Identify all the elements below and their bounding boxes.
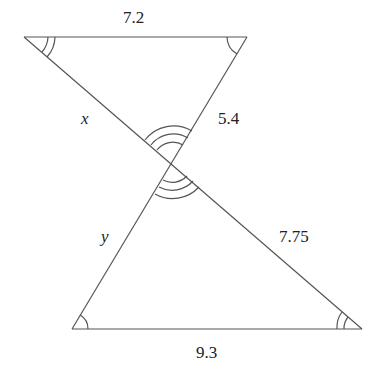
label-bottom-side: 9.3 [196, 344, 217, 361]
angle-mark-center-top [145, 126, 192, 150]
angle-mark-top-right [227, 37, 237, 54]
angle-mark-bottom-right [337, 312, 348, 329]
label-top-side: 7.2 [123, 9, 144, 26]
diagonal-tr-bl [72, 37, 247, 329]
label-y: y [101, 228, 109, 245]
label-x: x [81, 110, 89, 127]
label-upper-right: 5.4 [218, 110, 239, 127]
triangle-lines [0, 0, 380, 381]
angle-mark-bottom-left [80, 315, 88, 329]
label-lower-right: 7.75 [279, 228, 309, 245]
similar-triangles-diagram: 7.2 x 5.4 y 7.75 9.3 [0, 0, 380, 381]
diagonal-tl-br [24, 37, 362, 329]
